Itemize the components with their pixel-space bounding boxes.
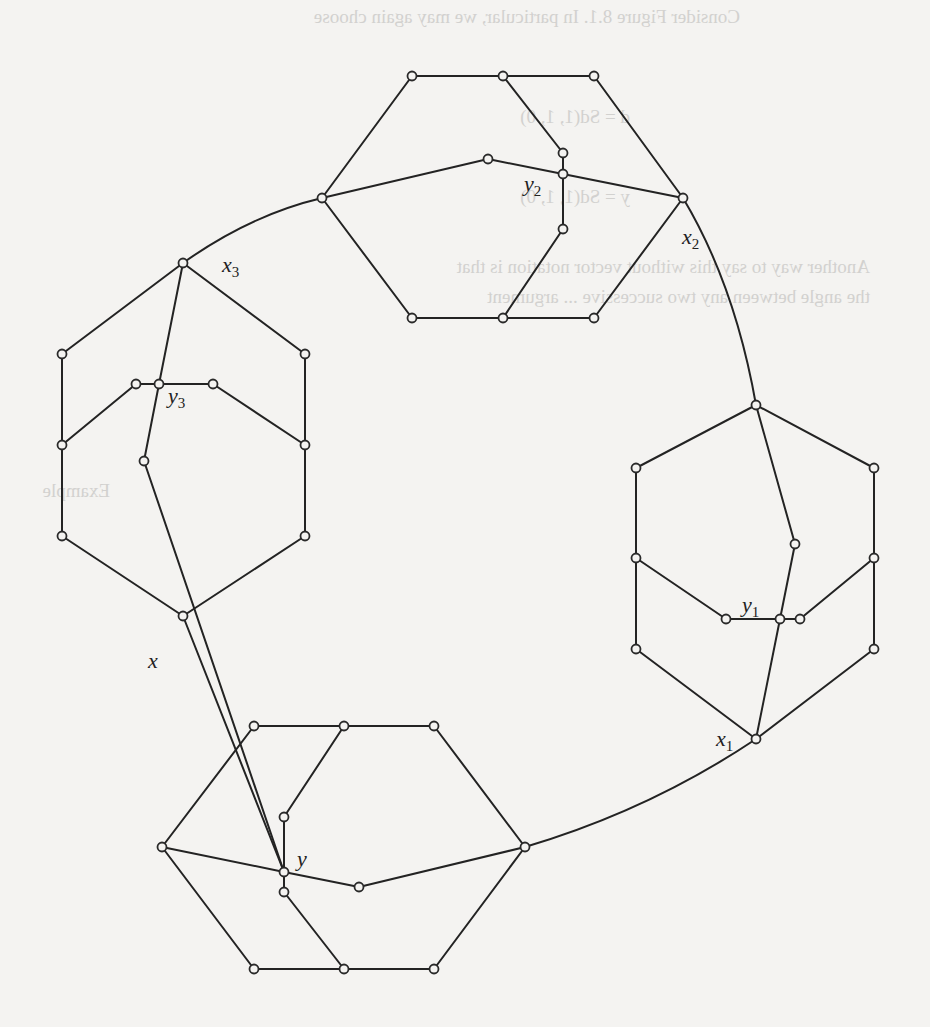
edge-r0-yR3: [756, 405, 795, 544]
vertex-yR2: [796, 615, 805, 624]
vertex-yA: [132, 380, 141, 389]
edge-b3-b5: [434, 726, 525, 847]
edge-l3-yA: [62, 384, 136, 445]
edge-r0-r2: [756, 405, 874, 468]
vertex-yR3: [791, 540, 800, 549]
vertex-bA: [280, 813, 289, 822]
vertex-r6: [870, 645, 879, 654]
vertex-yB: [209, 380, 218, 389]
edge-b2-bA: [284, 726, 344, 817]
label-x2: x2: [681, 224, 699, 252]
edge-yR3-y1: [780, 544, 795, 619]
edge-x3-l2: [183, 263, 305, 354]
vertex-l5: [58, 532, 67, 541]
label-x: x: [147, 648, 158, 673]
path-bottom-to-x1: [525, 739, 756, 847]
vertex-bB: [280, 888, 289, 897]
path-x3-to-top: [183, 198, 322, 263]
vertex-x: [158, 843, 167, 852]
vertex-t8: [590, 314, 599, 323]
edge-x3-l1: [62, 263, 183, 354]
edge-y-bC: [284, 872, 359, 887]
vertex-tA: [559, 149, 568, 158]
edge-r5-x1: [636, 649, 756, 739]
edge-l5-l7: [62, 536, 183, 616]
edge-r3-yR1: [636, 558, 726, 619]
label-y1: y1: [740, 592, 759, 620]
vertex-r4: [870, 554, 879, 563]
vertex-r3: [632, 554, 641, 563]
vertex-b7: [340, 965, 349, 974]
vertex-yC: [140, 457, 149, 466]
vertex-yR1: [722, 615, 731, 624]
vertex-l3: [58, 441, 67, 450]
vertex-l1: [58, 350, 67, 359]
edge-yC-y: [144, 461, 284, 872]
vertex-b2: [340, 722, 349, 731]
vertex-l4: [301, 441, 310, 450]
vertex-y1: [776, 615, 785, 624]
vertex-y: [280, 868, 289, 877]
vertex-r5: [632, 645, 641, 654]
vertex-t1: [408, 72, 417, 81]
vertex-y3: [155, 380, 164, 389]
path-x2-to-right: [683, 198, 756, 405]
edge-yR2-r4: [800, 558, 874, 619]
vertex-bC: [355, 883, 364, 892]
edge-r0-r1: [636, 405, 756, 468]
label-x1: x1: [715, 726, 733, 754]
gadget-graph-diagram: x y x1 y1 x2 y2 x3 y3: [0, 0, 930, 1027]
vertex-x3: [179, 259, 188, 268]
edge-x-y: [162, 847, 284, 872]
label-x3: x3: [221, 252, 239, 280]
vertex-b1: [250, 722, 259, 731]
edge-t4-t6: [322, 198, 412, 318]
vertex-b8: [430, 965, 439, 974]
vertex-tY: [559, 170, 568, 179]
vertex-t5: [679, 194, 688, 203]
edge-tB-t7: [503, 229, 563, 318]
vertex-b5: [521, 843, 530, 852]
edge-l6-l7: [183, 536, 305, 616]
edge-y1-x1: [756, 619, 780, 739]
vertex-l2: [301, 350, 310, 359]
vertex-t4: [318, 194, 327, 203]
edge-r6-x1: [756, 649, 874, 739]
vertex-l7: [179, 612, 188, 621]
edge-x-b6: [162, 847, 254, 969]
label-y3: y3: [166, 383, 185, 411]
edge-yB-l4: [213, 384, 305, 445]
edge-tY-t5: [563, 174, 683, 198]
label-y: y: [295, 846, 307, 871]
vertex-r1: [632, 464, 641, 473]
edge-t2-tA: [503, 76, 563, 153]
label-y2: y2: [522, 171, 541, 199]
vertex-tB: [559, 225, 568, 234]
vertex-t7: [499, 314, 508, 323]
label-group: x y x1 y1 x2 y2 x3 y3: [147, 171, 759, 871]
vertex-tC: [484, 155, 493, 164]
vertex-r0: [752, 401, 761, 410]
edge-y3-yC: [144, 384, 159, 461]
vertex-t6: [408, 314, 417, 323]
vertex-b6: [250, 965, 259, 974]
edge-t5-t8: [594, 198, 683, 318]
edge-bB-b7: [284, 892, 344, 969]
edge-l7-y: [183, 616, 284, 872]
edge-group: [62, 76, 874, 969]
vertex-r2: [870, 464, 879, 473]
vertex-b3: [430, 722, 439, 731]
vertex-t3: [590, 72, 599, 81]
vertex-t2: [499, 72, 508, 81]
edge-x-b1: [162, 726, 254, 847]
edge-t3-t5: [594, 76, 683, 198]
vertex-x1: [752, 735, 761, 744]
vertex-group: [58, 72, 879, 974]
vertex-l6: [301, 532, 310, 541]
edge-x3-y3: [159, 263, 183, 384]
